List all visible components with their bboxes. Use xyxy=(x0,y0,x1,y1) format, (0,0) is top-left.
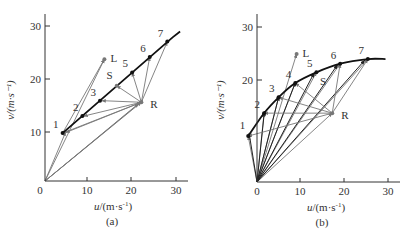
state-point-label-S: S xyxy=(107,69,113,81)
state-point-label-7: 7 xyxy=(358,44,364,56)
panel-a-ytick-label-30: 30 xyxy=(30,20,42,32)
state-point-S xyxy=(115,84,119,88)
panel-b-xtick-label-10: 10 xyxy=(295,185,307,197)
vector-from-origin xyxy=(45,100,143,181)
state-point-label-6: 6 xyxy=(331,49,337,61)
state-point-label-5: 5 xyxy=(307,57,313,69)
panel-b: 1234567LRS 0 10 20 30 20 30 u/(m·s-1) v/… xyxy=(214,14,400,229)
panel-a-xtick-label-30: 30 xyxy=(171,184,183,196)
panel-a-xtick-label-10: 10 xyxy=(82,184,94,196)
state-point-label-3: 3 xyxy=(91,86,97,98)
point-R-label: R xyxy=(150,98,158,110)
panel-a-marks: 123S567LR xyxy=(45,27,180,181)
panel-b-xtick-label-30: 30 xyxy=(383,185,395,197)
vector-from-R xyxy=(117,86,142,102)
panel-b-xlabel: u/(m·s-1) xyxy=(307,201,346,214)
panel-a: 123S567LR 0 10 20 30 10 20 30 u/(m·s-1) … xyxy=(4,14,188,228)
point-L xyxy=(102,57,106,61)
state-point-2 xyxy=(80,114,84,118)
point-R xyxy=(139,100,143,104)
panel-a-ylabel: v/(m·s⁻¹) xyxy=(4,80,17,120)
state-point-1 xyxy=(61,131,65,135)
panel-b-ylabel: v/(m·s⁻¹) xyxy=(214,80,227,120)
panel-a-ytick-label-10: 10 xyxy=(30,126,42,138)
point-L-label: L xyxy=(303,47,310,59)
state-point-3 xyxy=(277,95,281,99)
state-point-label-7: 7 xyxy=(158,27,164,39)
state-point-5 xyxy=(314,70,318,74)
panel-b-xlabel-close: ) xyxy=(341,201,345,214)
point-L-label: L xyxy=(110,52,117,64)
panel-a-xtick-label-20: 20 xyxy=(126,184,138,196)
vector-from-R xyxy=(132,72,141,102)
state-point-label-1: 1 xyxy=(240,119,246,131)
state-point-label-6: 6 xyxy=(140,42,146,54)
panel-b-xlabel-units: /(m·s xyxy=(312,201,335,214)
state-point-label-1: 1 xyxy=(53,118,59,130)
state-point-label-4: 4 xyxy=(286,68,292,80)
state-point-3 xyxy=(98,99,102,103)
state-point-label-3: 3 xyxy=(269,82,275,94)
panel-a-ytick-label-20: 20 xyxy=(30,73,42,85)
state-point-7 xyxy=(165,40,169,44)
state-point-label-2: 2 xyxy=(73,101,79,113)
panel-a-origin-label: 0 xyxy=(37,184,43,196)
panel-b-caption: (b) xyxy=(316,216,329,229)
state-point-4 xyxy=(293,81,297,85)
state-point-2 xyxy=(262,111,266,115)
panel-a-xlabel-close: ) xyxy=(128,200,132,213)
panel-b-ytick-label-20: 20 xyxy=(242,74,254,86)
point-S-label: S xyxy=(320,75,326,87)
point-R xyxy=(330,111,334,115)
vector-from-R xyxy=(102,101,142,103)
figure: 123S567LR 0 10 20 30 10 20 30 u/(m·s-1) … xyxy=(0,0,412,236)
panel-b-ytick-label-30: 30 xyxy=(242,21,254,33)
point-R-label: R xyxy=(341,109,349,121)
state-point-7 xyxy=(366,57,370,61)
panel-a-caption: (a) xyxy=(106,215,119,228)
state-point-6 xyxy=(148,55,152,59)
panel-b-marks: 1234567LRS xyxy=(240,44,386,182)
panel-b-origin-label: 0 xyxy=(254,185,260,197)
state-point-5 xyxy=(130,70,134,74)
state-point-label-5: 5 xyxy=(123,57,129,69)
panel-a-xlabel: u/(m·s-1) xyxy=(94,200,133,213)
panel-b-xtick-label-20: 20 xyxy=(339,185,351,197)
state-point-6 xyxy=(338,62,342,66)
vector-from-origin-dark xyxy=(249,133,257,182)
state-point-1 xyxy=(246,134,250,138)
point-L xyxy=(295,52,299,56)
vector-from-point-1 xyxy=(63,59,105,133)
panel-a-xlabel-units: /(m·s xyxy=(99,200,122,213)
